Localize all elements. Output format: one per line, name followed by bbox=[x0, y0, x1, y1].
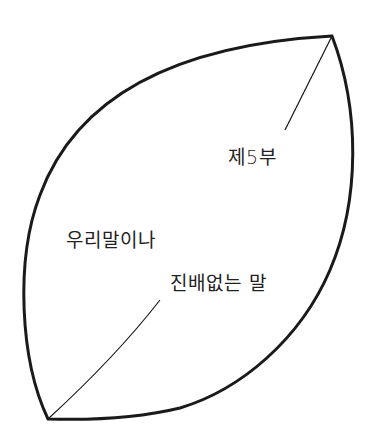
section-title: 우리말이나 bbox=[66, 225, 156, 252]
leaf-outline-graphic bbox=[0, 0, 381, 441]
vein-lower bbox=[48, 300, 160, 419]
vein-upper bbox=[285, 36, 332, 130]
part-label: 제5부 bbox=[228, 142, 277, 169]
section-subtitle: 진배없는 말 bbox=[170, 268, 267, 295]
